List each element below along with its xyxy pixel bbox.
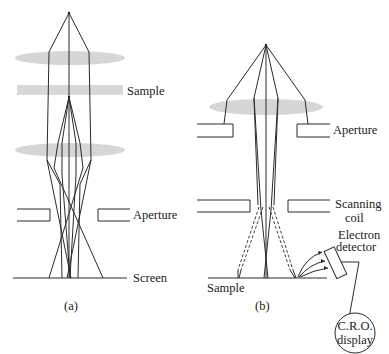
scanning-coil bbox=[197, 200, 330, 212]
objective-lens-a bbox=[15, 143, 125, 157]
label-screen: Screen bbox=[133, 271, 168, 285]
electron-detector bbox=[324, 247, 359, 318]
aperture-b bbox=[197, 124, 330, 137]
condenser-lens-a bbox=[15, 51, 125, 65]
label-sample-a: Sample bbox=[127, 84, 165, 98]
label-detector-line2: detector bbox=[336, 240, 377, 254]
panel-a-transmission: Sample Aperture Screen (a) bbox=[13, 12, 178, 313]
label-sample-b: Sample bbox=[207, 281, 245, 295]
sample-point-a bbox=[68, 96, 70, 98]
source-point-b bbox=[265, 44, 267, 46]
label-scanning-line1: Scanning bbox=[335, 197, 382, 211]
label-aperture-a: Aperture bbox=[133, 208, 178, 222]
label-aperture-b: Aperture bbox=[333, 123, 378, 137]
sample-band-a bbox=[17, 85, 123, 95]
electron-microscope-diagram: Sample Aperture Screen (a) bbox=[0, 0, 389, 354]
caption-b: (b) bbox=[255, 299, 270, 313]
secondary-electrons bbox=[298, 251, 328, 277]
label-cro-line1: C.R.O. bbox=[337, 319, 372, 333]
label-scanning-line2: coil bbox=[345, 211, 364, 225]
source-point-a bbox=[68, 12, 70, 14]
panel-b-scanning: Aperture Scanning coil Electron detector… bbox=[197, 44, 382, 353]
label-cro-line2: display bbox=[337, 333, 374, 347]
rays-b bbox=[224, 45, 308, 278]
caption-a: (a) bbox=[64, 299, 78, 313]
